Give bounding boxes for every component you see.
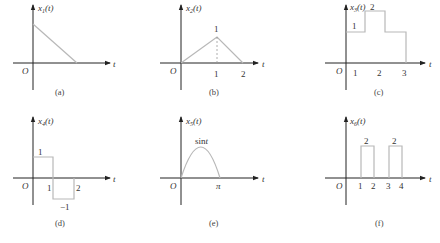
caption-f: (f) [375,218,384,228]
y-axis-label: x6(t) [349,116,366,127]
y-axis-label: x1(t) [37,3,54,14]
signal-x3 [346,11,406,63]
tick-pi: π [216,181,221,191]
t-axis-label: t [113,174,116,184]
t-axis-label: t [262,59,265,69]
tick-3: 3 [402,68,407,78]
origin-label: O [22,66,29,76]
y-axis-label: x2(t) [185,3,202,14]
y-axis-label: x4(t) [37,116,54,127]
tick-1: 1 [358,181,363,191]
caption-d: (d) [55,218,65,228]
panel-f: x6(t) 2 2 1 2 3 4 t O (f) [325,116,432,228]
signal-x2 [181,37,243,63]
tick-2: 2 [371,181,376,191]
caption-b: (b) [209,87,219,97]
peak-label: 1 [214,24,219,34]
level-neg1-label: −1 [60,202,70,212]
signal-x1 [33,24,77,63]
t-axis-label: t [429,174,432,184]
panel-a: x1(t) t O (a) [13,3,116,97]
panel-b: x2(t) 1 1 2 t O (b) [160,3,265,97]
level-1-label: 1 [352,21,357,31]
panel-e: x5(t) sint π t O (e) [160,116,265,228]
tick-2: 2 [377,68,382,78]
y-axis-label: x5(t) [185,116,202,127]
tick-1: 1 [353,68,358,78]
tick-4: 4 [399,181,404,191]
panel-c: x3(t) 1 2 1 2 3 t O (c) [325,2,432,97]
caption-e: (e) [209,218,219,228]
curve-label: sint [195,136,209,146]
origin-label: O [22,181,29,191]
pulse-2-label: 2 [392,136,397,146]
caption-a: (a) [55,87,65,97]
tick-1: 1 [47,183,52,193]
signal-x6-pulse-2 [389,146,402,178]
signal-x5-sine [181,147,220,178]
pulse-1-label: 2 [364,136,369,146]
tick-2: 2 [76,183,81,193]
panel-d: x4(t) 1 −1 1 2 t O (d) [13,116,116,228]
tick-2: 2 [241,69,246,79]
origin-label: O [336,66,343,76]
origin-label: O [170,181,177,191]
origin-label: O [170,66,177,76]
t-axis-label: t [429,59,432,69]
tick-1: 1 [214,69,219,79]
origin-label: O [336,181,343,191]
t-axis-label: t [262,174,265,184]
t-axis-label: t [113,59,116,69]
signal-x6-pulse-1 [361,146,374,178]
level-1-label: 1 [38,147,43,157]
y-axis-label: x3(t) [349,2,366,13]
signal-figure: x1(t) t O (a) x2(t) 1 1 2 t O (b) x3(t) … [0,0,440,243]
caption-c: (c) [374,87,384,97]
tick-3: 3 [386,181,391,191]
level-2-label: 2 [370,2,375,12]
